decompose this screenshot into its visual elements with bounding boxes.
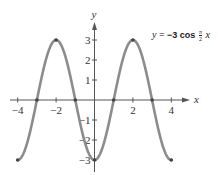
data-point	[16, 158, 20, 162]
data-point	[93, 158, 97, 162]
equation-label: y = −3 cos π 2 x	[152, 29, 210, 42]
cosine-graph: xy−4−224321−1−2−3	[0, 0, 218, 175]
x-tick-label: 4	[169, 104, 175, 116]
y-tick-label: 1	[85, 74, 91, 86]
y-axis-arrow-icon	[92, 22, 97, 30]
data-point	[170, 158, 174, 162]
equation-fraction: π 2	[199, 29, 202, 42]
x-axis-label: x	[193, 93, 199, 105]
data-point	[131, 38, 135, 42]
equation-coef: −3	[167, 30, 177, 40]
equation-var: x	[205, 29, 209, 40]
x-axis-arrow-icon	[182, 98, 190, 103]
y-tick-label: 3	[85, 34, 91, 46]
fraction-denominator: 2	[199, 36, 202, 42]
x-tick-label: −4	[12, 104, 24, 116]
equation-equals: =	[159, 29, 165, 40]
equation-func: cos	[180, 30, 196, 40]
data-point	[112, 98, 116, 102]
x-tick-label: −2	[50, 104, 62, 116]
x-tick-label: 2	[130, 104, 136, 116]
data-point	[150, 98, 154, 102]
data-point	[54, 38, 58, 42]
y-tick-label: 2	[85, 54, 91, 66]
equation-lhs: y	[152, 29, 156, 40]
y-axis-label: y	[91, 8, 97, 20]
fraction-numerator: π	[199, 29, 202, 36]
data-point	[35, 98, 39, 102]
data-point	[74, 98, 78, 102]
